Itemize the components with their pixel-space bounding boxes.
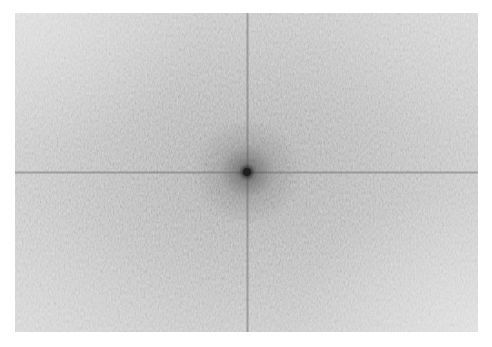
fft-spectrum-image bbox=[15, 13, 478, 332]
dc-component-peak bbox=[243, 168, 251, 176]
image-canvas bbox=[0, 0, 492, 347]
